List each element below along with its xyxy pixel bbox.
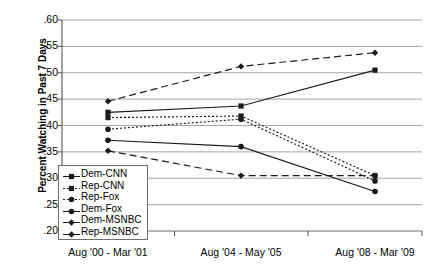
data-point-marker (69, 208, 75, 214)
legend-item: Rep-Fox (62, 191, 142, 203)
legend-label: Dem-Fox (81, 203, 122, 214)
data-point-marker (372, 189, 378, 195)
data-point-marker (105, 115, 110, 120)
legend-symbol-dashed-icon (62, 226, 81, 237)
data-point-marker (372, 50, 378, 56)
legend-item: Dem-MSNBC (62, 214, 142, 226)
data-point-marker (238, 103, 243, 108)
data-point-marker (105, 126, 111, 132)
data-point-marker (238, 144, 244, 150)
data-point-marker (372, 178, 378, 184)
data-point-marker (69, 186, 74, 191)
data-point-marker (105, 110, 110, 115)
data-point-marker (69, 174, 74, 179)
series-line (108, 119, 375, 181)
legend-label: Rep-CNN (81, 180, 124, 191)
legend-symbol-dashed-icon (62, 214, 81, 225)
data-point-marker (69, 197, 75, 203)
x-tick-label: Aug '00 - Mar '01 (43, 246, 173, 258)
data-point-marker (105, 137, 111, 143)
data-point-marker (105, 148, 111, 154)
chart-legend: Dem-CNNRep-CNNRep-FoxDem-FoxDem-MSNBCRep… (58, 165, 148, 240)
chart-container: Percent Watching in Past 7 Days .60.55.5… (0, 0, 429, 271)
legend-symbol-dotted-icon (62, 191, 81, 202)
legend-item: Dem-Fox (62, 203, 142, 215)
legend-item: Dem-CNN (62, 168, 142, 180)
data-point-marker (238, 116, 244, 122)
x-tick-label: Aug '04 - May '05 (176, 246, 306, 258)
series-line (108, 53, 375, 102)
legend-item: Rep-CNN (62, 180, 142, 192)
legend-label: Dem-CNN (81, 168, 127, 179)
legend-item: Rep-MSNBC (62, 226, 142, 238)
legend-symbol-dotted-icon (62, 180, 81, 191)
data-point-marker (372, 68, 377, 73)
legend-label: Rep-Fox (81, 191, 119, 202)
legend-label: Dem-MSNBC (81, 214, 142, 225)
series-line (108, 151, 375, 176)
legend-label: Rep-MSNBC (81, 226, 139, 237)
legend-symbol-solid-icon (62, 168, 81, 179)
data-point-marker (238, 63, 244, 69)
legend-symbol-solid-icon (62, 203, 81, 214)
data-point-marker (68, 231, 74, 237)
x-tick-label: Aug '08 - Mar '09 (310, 246, 429, 258)
